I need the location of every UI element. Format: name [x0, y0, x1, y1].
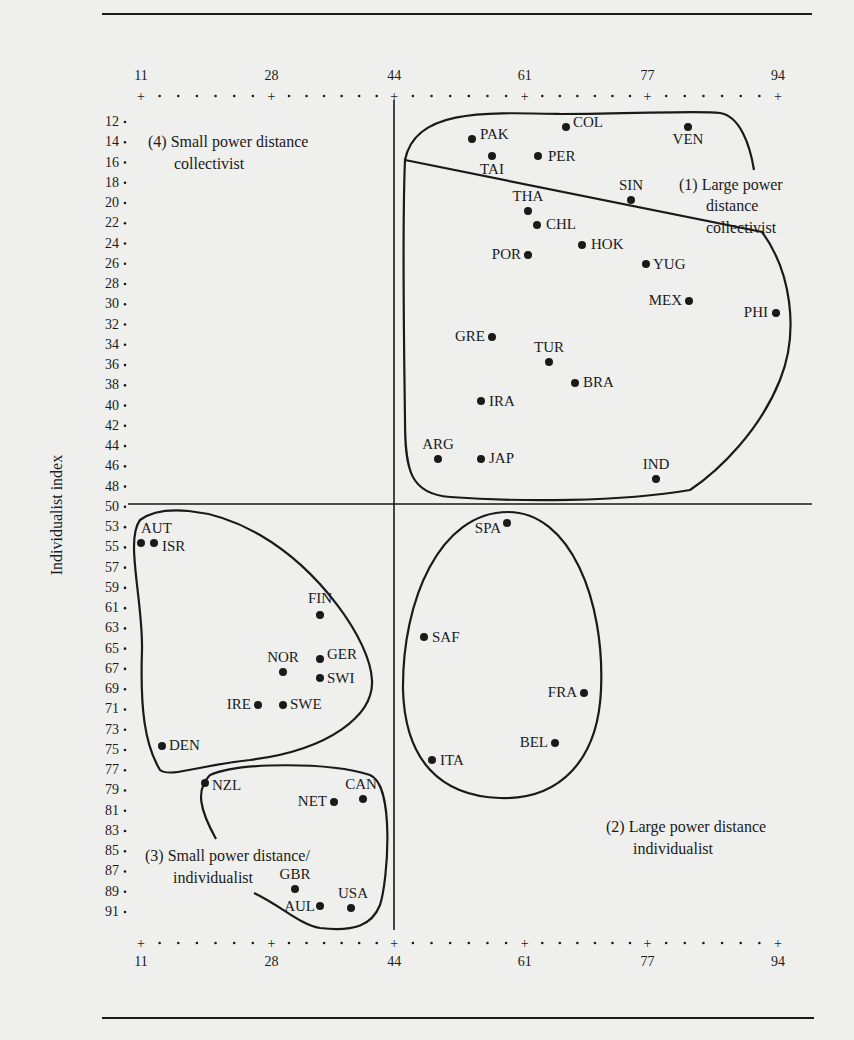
- point-marker: [158, 742, 166, 750]
- x-axis-dot: [196, 95, 199, 98]
- point-label: MEX: [649, 292, 683, 308]
- data-point-den: DEN: [158, 737, 200, 753]
- point-label: JAP: [489, 450, 514, 466]
- y-tick-label: 44: [105, 438, 119, 453]
- region-1-label-line2: distance: [706, 197, 758, 214]
- data-point-can: CAN: [345, 776, 377, 803]
- y-tick-label: 42: [105, 418, 119, 433]
- y-tick-label: 61: [105, 600, 119, 615]
- x-axis-dot: [486, 942, 489, 945]
- point-label: IND: [643, 456, 670, 472]
- point-label: IRE: [227, 696, 251, 712]
- point-label: IRA: [489, 393, 515, 409]
- data-point-isr: ISR: [150, 538, 185, 554]
- data-point-net: NET: [298, 793, 338, 809]
- x-axis-dot: [468, 95, 471, 98]
- data-point-tai: TAI: [480, 152, 504, 177]
- scatter-chart: +11+28+44+61+77+94 +11+28+44+61+77+94 12…: [0, 0, 854, 1040]
- point-label: THA: [513, 188, 544, 204]
- x-axis-dot: [739, 942, 742, 945]
- y-tick-label: 18: [105, 175, 119, 190]
- point-label: ISR: [162, 538, 185, 554]
- point-label: PER: [548, 148, 576, 164]
- point-label: TAI: [480, 161, 504, 177]
- y-axis-dot: [124, 728, 127, 731]
- y-tick-label: 75: [105, 742, 119, 757]
- x-axis-dot: [288, 942, 291, 945]
- y-axis-dot: [124, 789, 127, 792]
- x-axis-dot: [541, 942, 544, 945]
- y-axis-title: Individualist index: [48, 455, 65, 575]
- data-point-ven: VEN: [673, 123, 704, 147]
- x-tick-label: 28: [264, 954, 278, 969]
- y-axis-dot: [124, 181, 127, 184]
- point-label: POR: [492, 246, 521, 262]
- y-axis-dot: [124, 526, 127, 529]
- point-label: PHI: [744, 304, 768, 320]
- y-axis-dot: [124, 911, 127, 914]
- point-label: TUR: [534, 339, 564, 355]
- point-marker: [684, 123, 692, 131]
- x-axis-dot: [505, 95, 508, 98]
- point-marker: [524, 207, 532, 215]
- point-marker: [316, 655, 324, 663]
- y-tick-label: 79: [105, 782, 119, 797]
- y-tick-label: 83: [105, 823, 119, 838]
- y-tick-label: 77: [105, 762, 119, 777]
- x-axis-dot: [158, 942, 161, 945]
- data-point-sin: SIN: [619, 177, 643, 204]
- x-axis-dot: [177, 95, 180, 98]
- y-tick-label: 12: [105, 114, 119, 129]
- y-tick-label: 89: [105, 884, 119, 899]
- region-4-label-line1: (4) Small power distance: [148, 133, 308, 151]
- point-label: SWI: [327, 670, 355, 686]
- data-point-per: PER: [534, 148, 576, 164]
- y-tick-label: 57: [105, 560, 119, 575]
- point-marker: [201, 779, 209, 787]
- y-axis-dot: [124, 647, 127, 650]
- x-axis-dot: [214, 95, 217, 98]
- y-axis-dot: [124, 262, 127, 265]
- y-axis-dot: [124, 404, 127, 407]
- region-2-label-line2: individualist: [633, 840, 714, 857]
- point-label: GBR: [280, 866, 311, 882]
- point-marker: [477, 455, 485, 463]
- data-point-usa: USA: [338, 885, 368, 912]
- point-label: COL: [573, 114, 603, 130]
- region-2-label-line1: (2) Large power distance: [606, 818, 766, 836]
- y-axis-dot: [124, 668, 127, 671]
- data-point-bel: BEL: [520, 734, 559, 750]
- data-point-tha: THA: [513, 188, 544, 215]
- y-tick-label: 26: [105, 256, 119, 271]
- y-axis-dot: [124, 627, 127, 630]
- data-point-ger: GER: [316, 646, 357, 663]
- y-axis-dot: [124, 222, 127, 225]
- point-marker: [652, 475, 660, 483]
- y-tick-label: 48: [105, 479, 119, 494]
- x-axis-dot: [702, 95, 705, 98]
- x-axis-dot: [214, 942, 217, 945]
- x-tick-label: 44: [387, 68, 401, 83]
- x-axis-dot: [721, 942, 724, 945]
- x-tick-plus: +: [774, 89, 782, 104]
- y-tick-label: 63: [105, 620, 119, 635]
- y-axis-dot: [124, 445, 127, 448]
- point-marker: [533, 221, 541, 229]
- x-tick-label: 94: [771, 68, 785, 83]
- point-marker: [562, 123, 570, 131]
- y-tick-label: 53: [105, 519, 119, 534]
- x-tick-plus: +: [390, 936, 398, 951]
- point-marker: [330, 798, 338, 806]
- x-axis-dot: [177, 942, 180, 945]
- y-tick-label: 20: [105, 195, 119, 210]
- x-axis-dot: [611, 95, 614, 98]
- data-point-phi: PHI: [744, 304, 780, 320]
- point-label: SAF: [432, 629, 460, 645]
- region-4-label-line2: collectivist: [174, 155, 245, 172]
- point-marker: [551, 739, 559, 747]
- x-axis-dot: [252, 95, 255, 98]
- x-tick-label: 61: [518, 68, 532, 83]
- x-axis-dot: [323, 942, 326, 945]
- y-tick-label: 65: [105, 641, 119, 656]
- data-point-spa: SPA: [475, 519, 511, 536]
